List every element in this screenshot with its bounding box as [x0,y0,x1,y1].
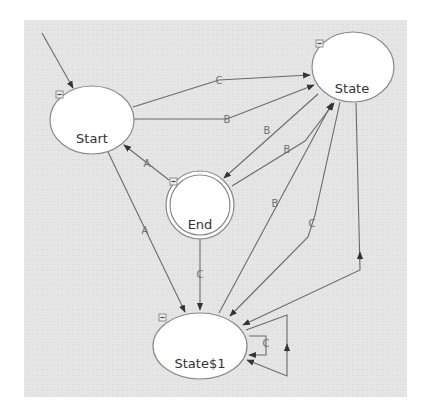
initial-transition[interactable] [42,33,73,88]
state-node-start[interactable]: Start [50,86,134,154]
state-label: End [188,217,213,232]
edge-state-state1-right[interactable] [243,103,360,325]
edge-label: B [264,125,271,136]
edge-start-state-b[interactable]: B [134,85,314,125]
state-label: State [335,81,369,96]
edge-label: C [263,338,270,349]
minus-box-icon[interactable] [316,40,323,47]
edge-end-state1-c[interactable]: C [197,234,204,310]
edge-start-state1-a[interactable]: A [108,152,185,312]
edge-label: C [216,75,223,86]
edge-end-state-b[interactable]: B [232,103,334,186]
edge-label: A [142,225,149,236]
minus-box-icon[interactable] [159,314,166,321]
state-node-end[interactable]: End [166,171,234,239]
edge-label: B [272,198,279,209]
edge-label: A [144,158,151,169]
edge-state-end-b[interactable]: B [224,94,318,178]
state-label: Start [76,131,108,146]
minus-box-icon[interactable] [170,178,177,185]
state-diagram: C B B B A A C B C [0,0,425,411]
edge-state1-state-b[interactable]: B [219,103,332,313]
state-node-state[interactable]: State [312,32,394,102]
edge-end-start-a[interactable]: A [124,145,169,180]
state-label: State$1 [175,356,226,371]
edge-label: B [284,144,291,155]
edge-state-state1-c[interactable]: C [230,102,340,316]
edge-label: C [309,218,316,229]
edge-label: C [197,269,204,280]
edge-start-state-c[interactable]: C [133,75,310,107]
state-node-state1[interactable]: State$1 [153,313,247,379]
minus-box-icon[interactable] [56,91,63,98]
edge-label: B [224,114,231,125]
edge-state1-selfloop-c[interactable]: C [249,336,270,355]
